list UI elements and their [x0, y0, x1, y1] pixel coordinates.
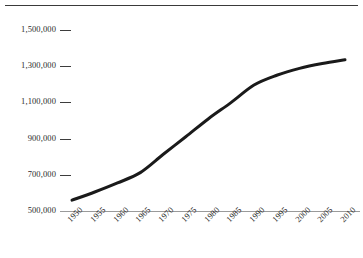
- data-series-line: [72, 60, 345, 200]
- line-chart: 500,000700,000900,0001,100,0001,300,0001…: [0, 0, 363, 258]
- x-axis-tick-labels: 1950195519601965197019751980198519901995…: [0, 213, 363, 258]
